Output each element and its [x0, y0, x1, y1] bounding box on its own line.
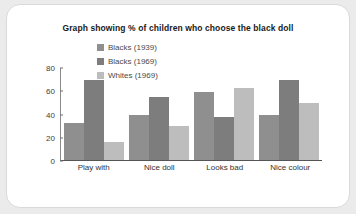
bar[interactable]: [214, 117, 234, 160]
y-axis-tick-label: 80: [46, 64, 60, 73]
bar[interactable]: [149, 97, 169, 160]
chart-card: Graph showing % of children who choose t…: [6, 4, 350, 208]
y-axis-tick-label: 0: [51, 157, 60, 166]
bar[interactable]: [194, 92, 214, 160]
legend-swatch-icon: [97, 44, 104, 51]
bar[interactable]: [279, 80, 299, 161]
bar-group: [61, 68, 126, 160]
plot-area: 020406080: [60, 68, 322, 161]
x-axis-tick-label: Looks bad: [192, 163, 258, 172]
bar[interactable]: [64, 123, 84, 160]
legend-label: Blacks (1969): [108, 57, 157, 66]
bar[interactable]: [84, 80, 104, 161]
bar-group: [192, 68, 257, 160]
x-axis-labels: Play withNice dollLooks badNice colour: [61, 163, 323, 172]
bar[interactable]: [259, 115, 279, 160]
legend-item-blacks-1939[interactable]: Blacks (1939): [97, 42, 158, 53]
x-axis-tick-label: Nice doll: [127, 163, 193, 172]
legend-swatch-icon: [97, 58, 104, 65]
bar[interactable]: [234, 88, 254, 160]
legend-item-blacks-1969[interactable]: Blacks (1969): [97, 56, 158, 67]
bar-group: [126, 68, 191, 160]
legend-label: Blacks (1939): [108, 43, 157, 52]
bar[interactable]: [129, 115, 149, 160]
y-axis-tick-label: 40: [46, 110, 60, 119]
y-axis-tick-label: 60: [46, 87, 60, 96]
bar[interactable]: [104, 142, 124, 160]
x-axis-tick-label: Play with: [61, 163, 127, 172]
bar[interactable]: [299, 103, 319, 161]
x-axis-tick-label: Nice colour: [258, 163, 324, 172]
y-axis-tick-mark: [60, 161, 63, 162]
bar-group: [257, 68, 322, 160]
bar-groups: [61, 68, 322, 160]
bar[interactable]: [169, 126, 189, 161]
y-axis-tick-label: 20: [46, 133, 60, 142]
chart-title: Graph showing % of children who choose t…: [7, 23, 349, 33]
